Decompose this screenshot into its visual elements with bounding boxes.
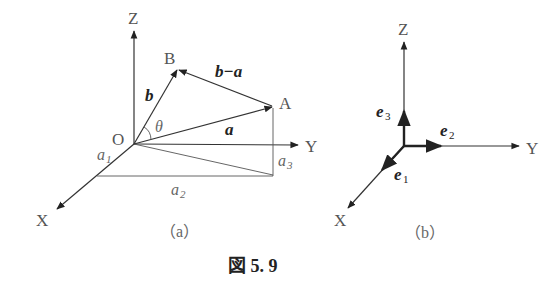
point-a-label: A — [279, 94, 292, 113]
a3-subscript: 3 — [286, 159, 293, 171]
component-a2-label: a 2 — [171, 181, 186, 200]
figure-caption: 図 5. 9 — [228, 256, 278, 276]
y-label-b: Y — [526, 139, 538, 158]
a1-letter: a — [97, 146, 105, 163]
projection-line — [134, 144, 273, 175]
component-a3-label: a 3 — [278, 152, 293, 171]
origin-label: O — [112, 130, 124, 149]
component-a1-label: a 1 — [97, 146, 112, 165]
panel-a-label: （a） — [160, 223, 199, 240]
theta-label: θ — [155, 118, 163, 135]
x-label-a: X — [36, 211, 48, 230]
z-label-b: Z — [398, 20, 408, 39]
figure-canvas: Z Y X O B A θ b a b−a a 1 a 2 a 3 （a） Z — [0, 0, 558, 291]
panel-a: Z Y X O B A θ b a b−a a 1 a 2 a 3 （a） — [36, 9, 317, 240]
e1-letter: e — [394, 165, 402, 184]
y-label-a: Y — [305, 137, 317, 156]
panel-b: Z Y X e 3 e 2 e 1 （b） — [334, 20, 538, 241]
a2-letter: a — [171, 181, 179, 198]
e2-subscript: 2 — [449, 129, 455, 141]
a2-subscript: 2 — [180, 188, 186, 200]
point-b-label: B — [164, 49, 175, 68]
angle-arc — [144, 127, 151, 140]
e1-subscript: 1 — [403, 173, 409, 185]
e3-subscript: 3 — [385, 110, 391, 122]
x-axis-a — [57, 144, 134, 209]
x-label-b: X — [334, 211, 346, 230]
vector-b-label: b — [145, 86, 154, 105]
a3-letter: a — [278, 152, 286, 169]
a1-subscript: 1 — [106, 153, 112, 165]
vector-a-label: a — [225, 120, 234, 139]
e3-letter: e — [376, 102, 384, 121]
e1-label: e 1 — [394, 165, 409, 185]
vector-b-minus-a-label: b−a — [215, 62, 243, 81]
panel-b-label: （b） — [405, 224, 445, 241]
e2-letter: e — [440, 121, 448, 140]
z-label-a: Z — [128, 9, 138, 28]
e3-label: e 3 — [376, 102, 391, 122]
e2-label: e 2 — [440, 121, 455, 141]
